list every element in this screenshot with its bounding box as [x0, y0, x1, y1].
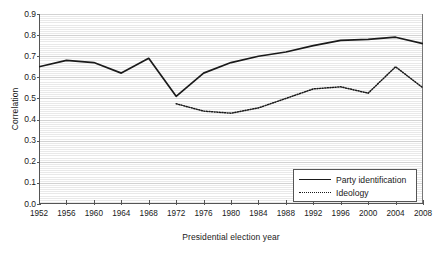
y-tick-label: 0.6	[10, 73, 36, 82]
x-tick-mark	[286, 200, 287, 205]
x-axis-title: Presidential election year	[39, 232, 423, 242]
x-tick-mark	[94, 200, 95, 205]
legend-item-label: Ideology	[336, 188, 369, 198]
y-tick-label: 0.5	[10, 94, 36, 103]
y-tick-label: 0.0	[10, 200, 36, 209]
dotted-line-icon	[298, 188, 332, 198]
x-axis-tick-labels: 1952195619601964196819721976198019841988…	[39, 205, 423, 223]
x-tick-mark	[176, 200, 177, 205]
series-line-party-identification	[39, 37, 423, 96]
y-tick-label: 0.1	[10, 178, 36, 187]
x-tick-mark	[39, 200, 40, 205]
y-tick-label: 0.9	[10, 10, 36, 19]
legend-item[interactable]: Party identification	[298, 173, 412, 186]
y-tick-label: 0.8	[10, 31, 36, 40]
y-tick-label: 0.2	[10, 157, 36, 166]
x-tick-mark	[149, 200, 150, 205]
x-tick-mark	[204, 200, 205, 205]
x-tick-mark	[423, 200, 424, 205]
solid-line-icon	[298, 175, 332, 185]
chart-legend: Party identificationIdeology	[293, 169, 417, 202]
y-tick-label: 0.4	[10, 115, 36, 124]
legend-item-label: Party identification	[336, 175, 406, 185]
x-tick-mark	[231, 200, 232, 205]
x-tick-mark	[258, 200, 259, 205]
x-tick-mark	[121, 200, 122, 205]
series-line-ideology	[176, 67, 423, 113]
y-tick-label: 0.3	[10, 136, 36, 145]
x-tick-label: 2008	[406, 209, 437, 218]
y-tick-label: 0.7	[10, 52, 36, 61]
legend-item[interactable]: Ideology	[298, 186, 412, 199]
x-tick-mark	[66, 200, 67, 205]
